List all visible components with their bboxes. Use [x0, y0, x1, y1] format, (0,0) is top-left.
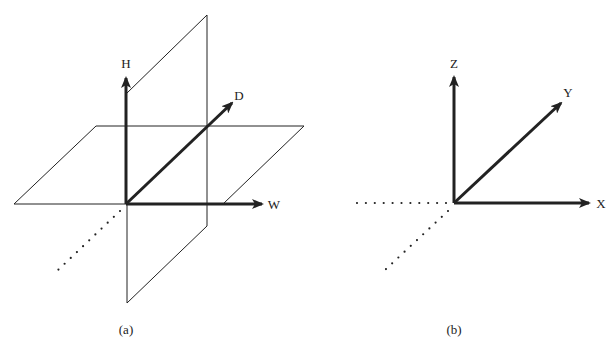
d-axis-label: D: [234, 88, 243, 103]
d-axis-arrow: [126, 103, 232, 204]
y-axis-label: Y: [563, 85, 573, 100]
figure-a: H D W (a): [14, 15, 304, 337]
coordinate-diagrams: H D W (a) Z Y X (b): [0, 0, 612, 347]
figure-b-caption: (b): [446, 322, 461, 337]
negative-y-dotted: [385, 211, 448, 270]
figure-b: Z Y X (b): [357, 56, 606, 337]
horizontal-plane: [14, 126, 304, 204]
y-axis-arrow: [454, 103, 561, 203]
vertical-plane: [127, 15, 207, 303]
z-axis-label: Z: [450, 56, 458, 71]
negative-depth-dotted: [57, 211, 120, 271]
w-axis-label: W: [268, 197, 281, 212]
figure-a-caption: (a): [119, 322, 133, 337]
x-axis-label: X: [596, 196, 606, 211]
h-axis-label: H: [121, 56, 130, 71]
